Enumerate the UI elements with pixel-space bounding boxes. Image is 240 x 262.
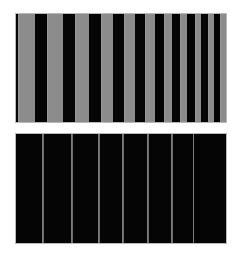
grating-bar-edge [147,134,148,243]
grating-bar-edge [171,134,172,243]
figure-canvas [0,0,240,262]
grating-bar-edge [195,14,196,122]
grating-bar-edge [18,14,19,122]
grating-bar-edge [180,14,181,122]
grating-bar [180,14,187,122]
grating-bar-edge [98,134,99,243]
grating-bar-edge [164,14,165,122]
grating-bar-edge [47,14,48,122]
grating-bar-edge [124,14,125,122]
grating-bar [145,14,155,122]
grating-bar-edge [208,14,209,122]
grating-bar [47,14,63,122]
grating-bar [164,14,172,122]
grating-bar-edge [75,14,76,122]
coarse-grating-panel [15,13,227,123]
grating-bar-edge [145,14,146,122]
grating-bar-edge [71,134,72,243]
grating-bar-edge [122,134,123,243]
grating-bar-edge [42,134,43,243]
fine-grating-panel [15,133,227,244]
grating-bar-edge [220,14,221,122]
grating-bar [101,14,113,122]
grating-bar [124,14,135,122]
grating-bar-edge [101,14,102,122]
grating-bar [75,14,89,122]
grating-bar [18,14,35,122]
grating-bar-edge [193,134,194,243]
